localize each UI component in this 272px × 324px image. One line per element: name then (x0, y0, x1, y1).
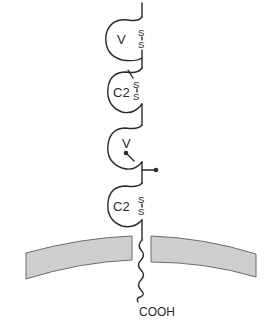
cys-link (128, 70, 133, 78)
domain-label: C2 (113, 199, 130, 214)
domain-c2-2: C2 S S (108, 183, 145, 227)
domain-c2-1: C2 S S (108, 68, 142, 113)
disulfide-s1: S (133, 79, 139, 90)
disulfide-s2: S (138, 39, 144, 50)
transmembrane-tail (137, 240, 143, 302)
domain-label: C2 (113, 85, 130, 100)
disulfide-s1: S (138, 194, 144, 205)
glycosylation-site-icon (124, 151, 129, 156)
disulfide-s1: S (138, 27, 144, 38)
membrane-left (26, 236, 132, 279)
cooh-terminus-label: COOH (139, 305, 175, 319)
domain-label: V (117, 32, 126, 47)
disulfide-s2: S (133, 91, 139, 102)
disulfide-s2: S (138, 206, 144, 217)
domain-v-1: V S S (106, 17, 145, 61)
protein-diagram: V S S C2 S S V C2 S S COOH (0, 0, 272, 324)
domain-label: V (122, 136, 131, 151)
domain-v-2: V (108, 125, 159, 172)
glycosylation-site-icon (154, 168, 159, 173)
membrane-right (151, 236, 256, 277)
